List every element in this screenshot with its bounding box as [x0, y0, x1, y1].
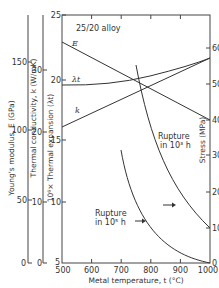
E-tick: 150 [12, 58, 27, 67]
lt-tick: 20 [51, 76, 61, 85]
chart: 0 50 100 150 Young's modulus, E (GPa) 0 … [0, 0, 219, 288]
curve-label-E: E [71, 39, 78, 48]
rupture-1e3-label-2: in 10³ h [160, 141, 191, 150]
x-tick: 600 [84, 266, 99, 275]
arrow-icon [135, 219, 146, 224]
chart-title: 25/20 alloy [76, 24, 121, 33]
stress-tick: 30 [212, 151, 219, 160]
curve-label-lt: λt [71, 75, 81, 84]
stress-tick: 50 [212, 80, 219, 89]
x-axis-title: Metal temperature, t (°C) [88, 276, 183, 285]
stress-tick: 0 [212, 259, 217, 268]
arrow-icon [163, 203, 176, 208]
x-tick: 500 [55, 266, 70, 275]
stress-tick: 40 [212, 116, 219, 125]
curve-rupture-1e5 [121, 150, 210, 263]
stress-axis-title: Stress (MPa) [198, 117, 207, 164]
k-tick: 0 [37, 259, 42, 268]
lt-tick: 15 [51, 136, 61, 145]
E-tick: 0 [21, 259, 26, 268]
stress-tick: 60 [212, 44, 219, 53]
rupture-1e5-label-1: Rupture [95, 209, 127, 218]
x-tick: 900 [173, 266, 188, 275]
lt-axis-title: 10⁶× Thermal expansion (λt) [46, 94, 55, 203]
x-tick: 800 [143, 266, 158, 275]
rupture-1e3-label-1: Rupture [158, 132, 190, 141]
k-axis-title: Thermal conductivity, k (W/mK) [29, 59, 38, 179]
curve-label-k: k [75, 106, 80, 115]
E-axis-title: Young's modulus, E (GPa) [7, 100, 16, 196]
curve-E [62, 42, 210, 120]
lt-tick: 25 [51, 11, 61, 20]
x-tick: 700 [114, 266, 129, 275]
stress-tick: 20 [212, 188, 219, 197]
curve-k [62, 58, 210, 127]
E-tick: 50 [17, 196, 27, 205]
rupture-1e5-label-2: in 10⁵ h [95, 218, 126, 227]
lt-tick: 10 [51, 198, 61, 207]
k-tick: 10 [32, 198, 42, 207]
stress-tick: 10 [212, 224, 219, 233]
